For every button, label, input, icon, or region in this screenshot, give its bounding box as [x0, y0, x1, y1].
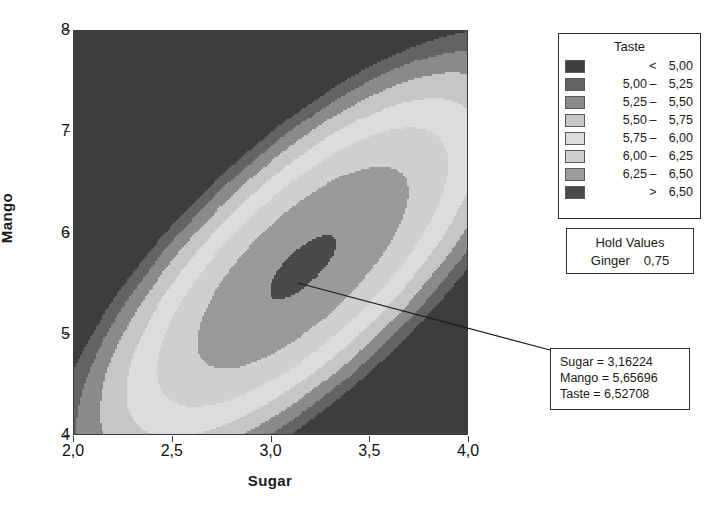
- x-tick-mark: [468, 436, 469, 442]
- legend-upper-bound: 5,25: [659, 77, 693, 91]
- legend[interactable]: Taste <5,005,00–5,255,25–5,505,50–5,755,…: [558, 33, 701, 219]
- legend-label: 5,00–5,25: [585, 77, 693, 91]
- callout-sugar: Sugar = 3,16224: [560, 354, 689, 370]
- y-tick-mark: [64, 131, 70, 132]
- legend-swatch: [565, 60, 585, 73]
- contour-plot[interactable]: [73, 30, 468, 435]
- callout-taste: Taste = 6,52708: [560, 386, 689, 402]
- x-tick-mark: [73, 436, 74, 442]
- legend-separator: –: [647, 131, 659, 145]
- y-axis-title: Mango: [0, 193, 15, 243]
- legend-upper-bound: 6,50: [659, 185, 693, 199]
- y-axis-ticks: 45678: [40, 30, 70, 435]
- legend-separator: –: [647, 77, 659, 91]
- legend-swatch: [565, 114, 585, 127]
- legend-label: >6,50: [585, 185, 693, 199]
- legend-lower-bound: 6,25: [607, 167, 647, 181]
- data-point-callout[interactable]: Sugar = 3,16224 Mango = 5,65696 Taste = …: [550, 348, 690, 410]
- legend-title: Taste: [559, 39, 700, 54]
- hold-values-value: 0,75: [644, 253, 669, 268]
- legend-row: <5,00: [559, 57, 700, 75]
- x-tick-label: 4,0: [457, 442, 479, 460]
- legend-swatch: [565, 168, 585, 181]
- y-tick-mark: [64, 233, 70, 234]
- legend-separator: –: [647, 95, 659, 109]
- y-tick-mark: [64, 334, 70, 335]
- plot-frame: [73, 30, 468, 435]
- x-tick-mark: [271, 436, 272, 442]
- legend-label: 6,25–6,50: [585, 167, 693, 181]
- legend-row: 5,25–5,50: [559, 93, 700, 111]
- hold-values-box: Hold Values Ginger 0,75: [566, 228, 694, 274]
- x-axis-title: Sugar: [248, 472, 293, 489]
- legend-swatch: [565, 186, 585, 199]
- legend-label: 5,25–5,50: [585, 95, 693, 109]
- legend-label: 5,50–5,75: [585, 113, 693, 127]
- x-tick-label: 2,0: [62, 442, 84, 460]
- legend-rows: <5,005,00–5,255,25–5,505,50–5,755,75–6,0…: [559, 57, 700, 201]
- x-tick-label: 3,5: [358, 442, 380, 460]
- legend-label: 5,75–6,00: [585, 131, 693, 145]
- legend-separator: >: [647, 185, 659, 199]
- legend-separator: <: [647, 59, 659, 73]
- legend-swatch: [565, 78, 585, 91]
- legend-swatch: [565, 96, 585, 109]
- legend-upper-bound: 6,50: [659, 167, 693, 181]
- legend-lower-bound: 5,25: [607, 95, 647, 109]
- x-tick-label: 3,0: [259, 442, 281, 460]
- callout-mango: Mango = 5,65696: [560, 370, 689, 386]
- x-tick-mark: [369, 436, 370, 442]
- legend-row: >6,50: [559, 183, 700, 201]
- legend-lower-bound: 5,50: [607, 113, 647, 127]
- legend-upper-bound: 6,25: [659, 149, 693, 163]
- legend-label: <5,00: [585, 59, 693, 73]
- x-tick-label: 2,5: [161, 442, 183, 460]
- hold-values-row: Ginger 0,75: [591, 253, 669, 268]
- legend-separator: –: [647, 113, 659, 127]
- legend-upper-bound: 6,00: [659, 131, 693, 145]
- legend-separator: –: [647, 149, 659, 163]
- legend-row: 6,00–6,25: [559, 147, 700, 165]
- legend-row: 5,75–6,00: [559, 129, 700, 147]
- legend-upper-bound: 5,00: [659, 59, 693, 73]
- legend-separator: –: [647, 167, 659, 181]
- contour-plot-page: 45678 2,02,53,03,54,0 Mango Sugar Taste …: [0, 0, 725, 509]
- legend-upper-bound: 5,75: [659, 113, 693, 127]
- y-tick-mark: [64, 30, 70, 31]
- contour-bands: [74, 31, 467, 434]
- legend-row: 5,50–5,75: [559, 111, 700, 129]
- hold-values-title: Hold Values: [595, 235, 664, 250]
- y-tick-mark: [64, 435, 70, 436]
- legend-swatch: [565, 150, 585, 163]
- legend-row: 5,00–5,25: [559, 75, 700, 93]
- legend-lower-bound: 6,00: [607, 149, 647, 163]
- hold-values-name: Ginger: [591, 253, 630, 268]
- legend-swatch: [565, 132, 585, 145]
- x-tick-mark: [172, 436, 173, 442]
- legend-lower-bound: 5,75: [607, 131, 647, 145]
- legend-lower-bound: 5,00: [607, 77, 647, 91]
- legend-upper-bound: 5,50: [659, 95, 693, 109]
- legend-label: 6,00–6,25: [585, 149, 693, 163]
- x-axis-ticks: 2,02,53,03,54,0: [73, 436, 468, 464]
- legend-row: 6,25–6,50: [559, 165, 700, 183]
